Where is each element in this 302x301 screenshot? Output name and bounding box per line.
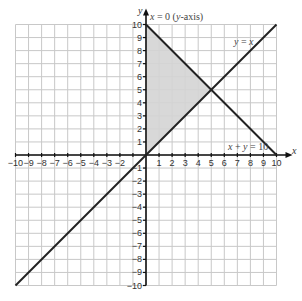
shaded-feasible-region [146,25,211,156]
y-tick-label: 5 [137,85,142,95]
y-tick-label: 9 [137,33,142,43]
x-tick-label: 2 [170,158,175,168]
x-tick-label: −9 [23,158,33,168]
y-tick-label: 3 [137,111,142,121]
y-tick-label: 10 [132,20,142,30]
annotation-x-plus-y-equals-10: x + y = 10 [227,141,268,152]
y-tick-label: 6 [137,72,142,82]
x-tick-label: 5 [209,158,214,168]
x-tick-label: 1 [157,158,162,168]
y-tick-label: −2 [132,176,142,186]
y-axis-arrow-icon [143,9,149,16]
x-tick-label: −6 [63,158,73,168]
x-tick-label: −10 [8,158,23,168]
x-tick-label: −3 [102,158,112,168]
x-tick-label: −5 [76,158,86,168]
y-tick-label: −7 [132,241,142,251]
coordinate-graph: −10−9−8−7−6−5−4−3−212345678910−10−9−8−7−… [0,0,302,301]
y-tick-label: −10 [127,281,142,291]
x-tick-label: 9 [261,158,266,168]
x-tick-label: −4 [89,158,99,168]
x-tick-label: −2 [115,158,125,168]
y-tick-label: −3 [132,189,142,199]
x-tick-label: −7 [50,158,60,168]
x-tick-label: 10 [271,158,281,168]
x-tick-label: 3 [183,158,188,168]
x-axis-label: x [291,145,297,156]
x-tick-label: 7 [235,158,240,168]
annotation-y-axis: x = 0 (y-axis) [149,11,203,23]
x-tick-label: 8 [248,158,253,168]
x-tick-label: 6 [222,158,227,168]
y-tick-label: −8 [132,254,142,264]
x-tick-label: 4 [196,158,201,168]
y-tick-label: −5 [132,215,142,225]
y-tick-label: −4 [132,202,142,212]
y-tick-label: −6 [132,228,142,238]
y-tick-label: −9 [132,267,142,277]
y-tick-label: 2 [137,124,142,134]
y-tick-label: 1 [137,137,142,147]
y-tick-label: 7 [137,59,142,69]
y-tick-label: 8 [137,46,142,56]
y-axis-label: y [137,5,143,16]
x-tick-label: −8 [36,158,46,168]
y-tick-label: 4 [137,98,142,108]
y-tick-label: −1 [132,163,142,173]
annotation-y-equals-x: y = x [233,36,254,47]
